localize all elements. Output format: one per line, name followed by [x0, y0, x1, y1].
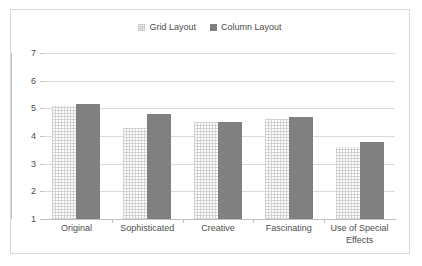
- bar-column-layout[interactable]: [360, 142, 384, 219]
- bar-group: [253, 53, 324, 219]
- y-axis-tick-label: 6: [14, 76, 36, 86]
- y-axis-tick-label: 5: [14, 103, 36, 113]
- x-axis-label-line: Fascinating: [253, 222, 324, 234]
- bar-column-layout[interactable]: [76, 104, 100, 219]
- bar-grid-layout[interactable]: [52, 106, 76, 219]
- legend-swatch-column-layout-icon: [210, 24, 217, 31]
- bar-column-layout[interactable]: [289, 117, 313, 219]
- legend-label-column-layout: Column Layout: [221, 22, 282, 32]
- x-axis-category-labels: OriginalSophisticatedCreativeFascinating…: [41, 222, 395, 246]
- bar-group: [324, 53, 395, 219]
- y-axis-tick-label: 4: [14, 131, 36, 141]
- y-axis-tick-mark: [40, 81, 43, 82]
- bar-grid-layout[interactable]: [265, 119, 289, 219]
- bar-group: [183, 53, 254, 219]
- x-axis-label-1: Sophisticated: [112, 222, 183, 246]
- y-axis-tick-labels: 1234567: [11, 53, 36, 219]
- legend-swatch-grid-layout-icon: [138, 24, 145, 31]
- bar-column-layout[interactable]: [218, 122, 242, 219]
- legend-label-grid-layout: Grid Layout: [149, 22, 196, 32]
- x-axis-label-line: Original: [41, 222, 112, 234]
- x-axis-label-line: Creative: [183, 222, 254, 234]
- y-axis-tick-mark: [40, 191, 43, 192]
- legend-entry-column-layout: Column Layout: [210, 22, 282, 32]
- bar-group: [112, 53, 183, 219]
- x-axis-separator-tick: [324, 219, 325, 223]
- x-axis-label-2: Creative: [183, 222, 254, 246]
- x-axis-label-line: Effects: [324, 234, 395, 246]
- y-axis-tick-mark: [40, 136, 43, 137]
- x-axis-separator-tick: [112, 219, 113, 223]
- legend-entry-grid-layout: Grid Layout: [138, 22, 196, 32]
- bar-column-layout[interactable]: [147, 114, 171, 219]
- y-axis-tick-mark: [40, 53, 43, 54]
- bar-grid-layout[interactable]: [123, 128, 147, 219]
- bars-layer: [41, 53, 395, 219]
- x-axis-separator-tick: [253, 219, 254, 223]
- x-axis-label-3: Fascinating: [253, 222, 324, 246]
- x-axis-label-line: Sophisticated: [112, 222, 183, 234]
- y-axis-tick-label: 2: [14, 186, 36, 196]
- x-axis-line: [40, 219, 396, 220]
- y-axis-tick-mark: [40, 219, 43, 220]
- y-axis-tick-label: 3: [14, 159, 36, 169]
- x-axis-label-4: Use of SpecialEffects: [324, 222, 395, 246]
- bar-group: [41, 53, 112, 219]
- y-axis-tick-mark: [40, 108, 43, 109]
- x-axis-label-0: Original: [41, 222, 112, 246]
- y-axis-tick-label: 7: [14, 48, 36, 58]
- y-axis-line: [11, 53, 12, 219]
- x-axis-separator-tick: [183, 219, 184, 223]
- y-axis-tick-mark: [40, 164, 43, 165]
- x-axis-label-line: Use of Special: [324, 222, 395, 234]
- chart-frame: Grid Layout Column Layout 1234567 Origin…: [10, 9, 410, 254]
- bar-grid-layout[interactable]: [194, 122, 218, 219]
- y-axis-tick-label: 1: [14, 214, 36, 224]
- chart-legend: Grid Layout Column Layout: [11, 22, 409, 32]
- bar-grid-layout[interactable]: [336, 147, 360, 219]
